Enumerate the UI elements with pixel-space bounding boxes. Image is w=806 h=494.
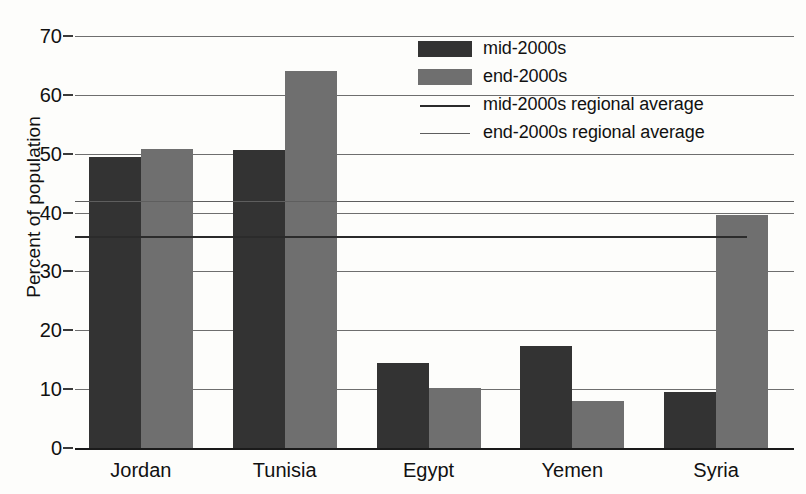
legend-line-gray [418, 125, 472, 141]
legend-label-0: mid-2000s [483, 38, 566, 59]
legend-label-3: end-2000s regional average [483, 122, 705, 143]
legend-item-3[interactable]: end-2000s regional average [418, 120, 705, 145]
legend-swatch-dark [418, 41, 472, 57]
bar-egypt-end-2000s [429, 388, 481, 448]
bar-syria-end-2000s [716, 215, 768, 448]
y-tick-label-60: 60 [40, 85, 62, 105]
y-tick-mark-10 [63, 388, 73, 390]
bar-syria-mid-2000s [664, 392, 716, 448]
legend-item-1[interactable]: end-2000s [418, 64, 705, 89]
x-axis-label-yemen: Yemen [542, 459, 604, 482]
bar-tunisia-mid-2000s [233, 150, 285, 448]
y-tick-label-40: 40 [40, 203, 62, 223]
y-tick-mark-70 [63, 35, 73, 37]
bar-chart: Percent of population 010203040506070 mi… [0, 0, 806, 494]
y-tick-label-20: 20 [40, 320, 62, 340]
legend-swatch-gray [418, 69, 472, 85]
y-tick-mark-40 [63, 212, 73, 214]
legend-label-1: end-2000s [483, 66, 567, 87]
bar-yemen-end-2000s [572, 401, 624, 448]
y-tick-label-50: 50 [40, 144, 62, 164]
reference-line-end [75, 201, 794, 202]
y-tick-mark-60 [63, 94, 73, 96]
y-tick-label-0: 0 [51, 438, 62, 458]
y-tick-label-70: 70 [40, 26, 62, 46]
x-axis-label-jordan: Jordan [110, 459, 171, 482]
bar-egypt-mid-2000s [377, 363, 429, 448]
y-tick-mark-50 [63, 153, 73, 155]
bar-yemen-mid-2000s [520, 346, 572, 448]
legend-item-0[interactable]: mid-2000s [418, 36, 705, 61]
chart-legend: mid-2000send-2000smid-2000s regional ave… [418, 36, 705, 148]
bar-tunisia-end-2000s [285, 71, 337, 448]
legend-line-dark [418, 97, 472, 113]
y-tick-mark-20 [63, 329, 73, 331]
bar-jordan-end-2000s [141, 149, 193, 448]
y-tick-label-30: 30 [40, 261, 62, 281]
y-tick-mark-30 [63, 270, 73, 272]
reference-line-mid [75, 236, 747, 238]
x-axis-line [75, 448, 794, 450]
legend-item-2[interactable]: mid-2000s regional average [418, 92, 705, 117]
x-axis-label-egypt: Egypt [403, 459, 454, 482]
x-axis-label-tunisia: Tunisia [253, 459, 317, 482]
y-tick-mark-0 [63, 447, 73, 449]
x-axis-label-syria: Syria [693, 459, 739, 482]
y-tick-label-10: 10 [40, 379, 62, 399]
legend-label-2: mid-2000s regional average [483, 94, 704, 115]
